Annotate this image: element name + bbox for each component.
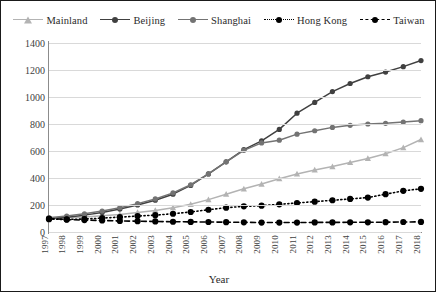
x-tick-label: 2015 — [358, 235, 368, 254]
data-point — [294, 111, 299, 116]
legend-marker-circle — [112, 17, 118, 23]
x-tick-label: 2001 — [110, 235, 120, 254]
x-tick-label: 2016 — [376, 235, 386, 254]
data-point — [277, 138, 282, 143]
legend-item-shanghai[interactable]: Shanghai — [178, 14, 251, 26]
data-point — [382, 219, 388, 225]
series-layer — [49, 43, 421, 232]
data-point — [152, 218, 158, 224]
x-tick-label: 2008 — [234, 235, 244, 254]
legend-label: Taiwan — [393, 15, 424, 26]
data-point — [82, 211, 87, 216]
x-tick-label: 1998 — [57, 235, 67, 254]
data-point — [347, 219, 353, 225]
data-point — [224, 159, 229, 164]
legend-marker-circle — [276, 17, 282, 23]
gridline — [49, 43, 421, 44]
data-point — [277, 127, 282, 132]
x-tick-label: 2003 — [146, 235, 156, 254]
data-point — [276, 219, 282, 225]
data-point — [259, 140, 264, 145]
legend-item-hong-kong[interactable]: Hong Kong — [264, 14, 347, 26]
data-point — [188, 219, 194, 225]
x-tick-label: 2000 — [93, 235, 103, 254]
data-point — [330, 89, 335, 94]
legend-swatch — [178, 14, 208, 26]
legend-label: Beijing — [133, 15, 165, 26]
data-point — [329, 219, 335, 225]
data-point — [365, 194, 371, 200]
legend-label: Mainland — [46, 15, 87, 26]
data-point — [330, 125, 335, 130]
data-point — [347, 196, 353, 202]
legend-item-beijing[interactable]: Beijing — [100, 14, 165, 26]
data-point — [206, 171, 211, 176]
data-point — [401, 64, 406, 69]
gridline — [49, 97, 421, 98]
x-tick-label: 2005 — [181, 235, 191, 254]
y-tick-label: 200 — [3, 200, 45, 211]
data-point — [312, 199, 318, 205]
data-point — [117, 218, 123, 224]
y-tick-label: 400 — [3, 173, 45, 184]
y-tick-label: 600 — [3, 146, 45, 157]
data-point — [134, 218, 140, 224]
legend-marker-circle — [190, 17, 196, 23]
data-point — [418, 136, 424, 142]
data-point — [205, 219, 211, 225]
x-tick-label: 2007 — [217, 235, 227, 254]
y-tick-label: 1000 — [3, 92, 45, 103]
series-line — [49, 61, 421, 219]
x-tick-label: 2010 — [270, 235, 280, 254]
data-point — [99, 217, 105, 223]
data-point — [170, 190, 175, 195]
y-axis-ticks: 0200400600800100012001400 — [1, 1, 45, 292]
legend-item-taiwan[interactable]: Taiwan — [360, 14, 424, 26]
chart-figure: MainlandBeijingShanghaiHong KongTaiwan 0… — [0, 0, 436, 292]
legend-swatch — [100, 14, 130, 26]
legend-marker-circle — [372, 17, 378, 23]
data-point — [241, 219, 247, 225]
x-axis-ticks: 1997199819992000200120022003200420052006… — [49, 235, 421, 275]
data-point — [400, 219, 406, 225]
data-point — [418, 219, 424, 225]
legend-swatch — [264, 14, 294, 26]
x-axis-title: Year — [1, 273, 436, 285]
x-tick-label: 2013 — [323, 235, 333, 254]
data-point — [170, 211, 176, 217]
gridline — [49, 232, 421, 233]
data-point — [170, 219, 176, 225]
data-point — [153, 196, 158, 201]
data-point — [418, 118, 423, 123]
data-point — [258, 219, 264, 225]
x-tick-label: 2012 — [305, 235, 315, 254]
legend-label: Shanghai — [211, 15, 251, 26]
data-point — [365, 219, 371, 225]
data-point — [312, 100, 317, 105]
data-point — [400, 188, 406, 194]
data-point — [365, 74, 370, 79]
data-point — [152, 212, 158, 218]
y-tick-label: 1400 — [3, 38, 45, 49]
data-point — [312, 219, 318, 225]
gridline — [49, 124, 421, 125]
gridline — [49, 205, 421, 206]
data-point — [64, 216, 70, 222]
y-tick-label: 0 — [3, 227, 45, 238]
gridline — [49, 178, 421, 179]
gridline — [49, 70, 421, 71]
x-tick-label: 2009 — [252, 235, 262, 254]
data-point — [188, 209, 194, 215]
legend-swatch — [360, 14, 390, 26]
data-point — [418, 186, 424, 192]
data-point — [312, 128, 317, 133]
x-tick-label: 2018 — [412, 235, 422, 254]
data-point — [329, 197, 335, 203]
x-tick-label: 2014 — [341, 235, 351, 254]
x-tick-label: 2006 — [199, 235, 209, 254]
y-tick-label: 1200 — [3, 65, 45, 76]
data-point — [205, 207, 211, 213]
chart-legend: MainlandBeijingShanghaiHong KongTaiwan — [1, 10, 436, 30]
x-tick-label: 2004 — [164, 235, 174, 254]
data-point — [81, 217, 87, 223]
